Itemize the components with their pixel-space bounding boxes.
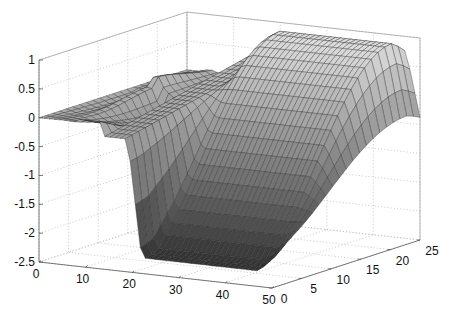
x-tick-label: 10 [76,272,90,286]
z-tick-label: -0.5 [14,140,35,154]
z-tick-label: -1.5 [14,197,35,211]
y-tick-label: 15 [366,263,380,277]
y-tick-label: 10 [337,273,351,287]
z-tick-label: 1 [28,53,35,67]
y-tick-label: 5 [310,282,317,296]
y-tick-label: 20 [396,254,410,268]
z-tick-label: -2 [24,226,35,240]
x-tick-label: 30 [169,283,183,297]
surface-mesh [39,31,420,271]
x-tick-label: 50 [262,293,276,307]
plot-canvas: 10.50-0.5-1-1.5-2-2.5 01020304050 051015… [0,0,451,309]
z-tick-label: 0 [28,111,35,125]
z-tick-label: -1 [24,168,35,182]
y-tick-label: 0 [281,292,288,306]
x-tick-label: 20 [123,277,137,291]
z-tick-label: 0.5 [18,82,35,96]
x-tick-label: 40 [216,288,230,302]
x-tick-label: 0 [33,267,40,281]
y-tick-label: 25 [425,244,439,258]
surface-plot: 10.50-0.5-1-1.5-2-2.5 01020304050 051015… [0,0,451,309]
y-axis-ticks: 0510152025 [269,240,439,306]
